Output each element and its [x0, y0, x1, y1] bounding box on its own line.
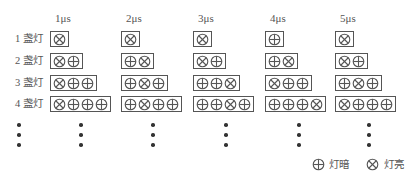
lamp-off-icon [152, 98, 165, 111]
ellipsis-dot [297, 133, 301, 137]
lamp-group-box [335, 31, 354, 47]
lamp-off-icon [268, 55, 281, 68]
row-label: 2 盏灯 [15, 55, 43, 67]
ellipsis-dot [224, 143, 228, 147]
lamp-off-icon [196, 77, 209, 90]
lamp-off-icon [352, 98, 365, 111]
lamp-off-icon [210, 98, 223, 111]
legend-lamp-off-icon [312, 158, 325, 171]
lamp-off-icon [124, 98, 137, 111]
lamp-on-icon [53, 98, 66, 111]
lamp-off-icon [67, 98, 80, 111]
lamp-off-icon [268, 98, 281, 111]
lamp-off-icon [124, 55, 137, 68]
ellipsis-dot [79, 143, 83, 147]
lamp-group-box [335, 96, 396, 112]
lamp-on-icon [338, 33, 351, 46]
lamp-on-icon [338, 55, 351, 68]
ellipsis-dot [367, 133, 371, 137]
lamp-off-icon [95, 98, 108, 111]
ellipsis-dot [151, 143, 155, 147]
lamp-on-icon [53, 77, 66, 90]
time-label: 3μs [198, 12, 214, 24]
legend-off-label: 灯暗 [329, 159, 349, 171]
lamp-group-box [121, 75, 168, 91]
lamp-on-icon [282, 55, 295, 68]
row-label: 4 盏灯 [15, 98, 43, 110]
lamp-group-box [121, 31, 140, 47]
lamp-group-box [265, 31, 284, 47]
time-label: 5μs [340, 12, 356, 24]
legend-on-label: 灯亮 [384, 159, 404, 171]
lamp-off-icon [196, 98, 209, 111]
lamp-on-icon [138, 55, 151, 68]
time-label: 4μs [270, 12, 286, 24]
lamp-group-box [193, 31, 212, 47]
lamp-off-icon [366, 77, 379, 90]
lamp-group-box [50, 53, 83, 69]
lamp-on-icon [224, 77, 237, 90]
lamp-on-icon [268, 77, 281, 90]
ellipsis-dot [297, 143, 301, 147]
ellipsis-dot [151, 123, 155, 127]
ellipsis-dot [79, 133, 83, 137]
lamp-off-icon [282, 77, 295, 90]
lamp-group-box [121, 96, 182, 112]
lamp-group-box [265, 96, 326, 112]
lamp-off-icon [366, 98, 379, 111]
lamp-group-box [335, 75, 382, 91]
lamp-off-icon [268, 33, 281, 46]
lamp-off-icon [152, 77, 165, 90]
lamp-group-box [193, 75, 240, 91]
ellipsis-dot [297, 123, 301, 127]
lamp-off-icon [210, 77, 223, 90]
lamp-off-icon [124, 77, 137, 90]
lamp-on-icon [138, 98, 151, 111]
ellipsis-dot [17, 123, 21, 127]
lamp-off-icon [282, 98, 295, 111]
lamp-off-icon [296, 77, 309, 90]
lamp-off-icon [352, 55, 365, 68]
lamp-group-box [265, 75, 312, 91]
lamp-on-icon [53, 55, 66, 68]
lamp-group-box [193, 96, 254, 112]
lamp-group-box [335, 53, 368, 69]
row-label: 1 盏灯 [15, 33, 43, 45]
ellipsis-dot [367, 123, 371, 127]
lamp-group-box [265, 53, 298, 69]
lamp-on-icon [196, 55, 209, 68]
lamp-off-icon [81, 77, 94, 90]
lamp-on-icon [196, 33, 209, 46]
lamp-group-box [50, 96, 111, 112]
ellipsis-dot [151, 133, 155, 137]
lamp-group-box [50, 75, 97, 91]
lamp-group-box [193, 53, 226, 69]
lamp-group-box [121, 53, 154, 69]
ellipsis-dot [367, 143, 371, 147]
lamp-off-icon [67, 77, 80, 90]
ellipsis-dot [224, 123, 228, 127]
ellipsis-dot [17, 143, 21, 147]
lamp-off-icon [296, 98, 309, 111]
row-label: 3 盏灯 [15, 77, 43, 89]
legend-lamp-on-icon [366, 158, 379, 171]
lamp-group-box [50, 31, 69, 47]
lamp-on-icon [53, 33, 66, 46]
lamp-off-icon [380, 98, 393, 111]
lamp-off-icon [210, 55, 223, 68]
ellipsis-dot [224, 133, 228, 137]
lamp-off-icon [67, 55, 80, 68]
lamp-on-icon [352, 77, 365, 90]
lamp-on-icon [338, 98, 351, 111]
lamp-on-icon [310, 98, 323, 111]
time-label: 1μs [55, 12, 71, 24]
lamp-off-icon [166, 98, 179, 111]
lamp-off-icon [338, 77, 351, 90]
ellipsis-dot [17, 133, 21, 137]
time-label: 2μs [126, 12, 142, 24]
lamp-on-icon [224, 98, 237, 111]
lamp-on-icon [124, 33, 137, 46]
lamp-off-icon [81, 98, 94, 111]
lamp-off-icon [238, 98, 251, 111]
ellipsis-dot [79, 123, 83, 127]
